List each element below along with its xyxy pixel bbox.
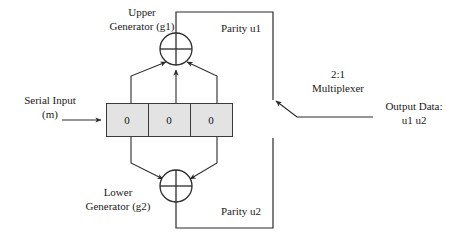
output-data-label-line2: u1 u2 [375, 114, 453, 127]
upper-generator-label-line1: Upper [82, 6, 202, 19]
upper-tap-right-wire [187, 62, 217, 103]
register-cell-value: 0 [106, 114, 148, 126]
lower-generator-label-line2: Generator (g2) [58, 200, 178, 213]
parity-u2-label: Parity u2 [210, 205, 272, 218]
encoder-diagram: 0 0 0 Upper Generator (g1) Lower Generat… [0, 0, 455, 238]
multiplexer-label-line1: 2:1 [292, 68, 384, 81]
register-cell-value: 0 [148, 114, 190, 126]
upper-tap-left-wire [131, 62, 166, 103]
upper-generator-label-line2: Generator (g1) [82, 20, 202, 33]
multiplexer-label-line2: Multiplexer [292, 82, 384, 95]
serial-input-label-line1: Serial Input [4, 94, 96, 107]
multiplexer-pointer-arrow [276, 101, 373, 117]
output-data-label-line1: Output Data: [375, 100, 453, 113]
serial-input-label-line2: (m) [4, 108, 96, 121]
lower-tap-right-wire [190, 137, 217, 179]
parity-u1-label: Parity u1 [210, 22, 272, 35]
upper-xor-gate [160, 33, 192, 65]
lower-generator-label-line1: Lower [58, 186, 178, 199]
register-cell-value: 0 [190, 114, 232, 126]
lower-tap-left-wire [131, 137, 163, 179]
